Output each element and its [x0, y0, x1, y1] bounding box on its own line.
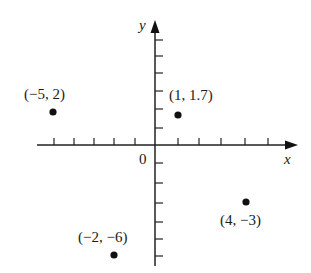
point-label: (−2, −6) [78, 229, 127, 246]
y-ticks [155, 40, 163, 256]
point-label: (1, 1.7) [169, 87, 213, 104]
y-axis-arrow-icon [151, 20, 160, 33]
y-axis-label: y [137, 17, 146, 33]
data-point [242, 198, 249, 205]
x-axis-arrow-icon [285, 141, 298, 150]
data-point [174, 111, 181, 118]
x-ticks [54, 138, 268, 145]
origin-label: 0 [139, 151, 147, 167]
point-label: (4, −3) [220, 212, 261, 229]
data-point [110, 251, 117, 258]
data-point [49, 108, 56, 115]
x-axis-label: x [283, 151, 291, 167]
coordinate-plane: y x 0 (−5, 2) (1, 1.7) (4, −3) (−2, −6) [0, 0, 311, 273]
point-label: (−5, 2) [24, 86, 65, 103]
